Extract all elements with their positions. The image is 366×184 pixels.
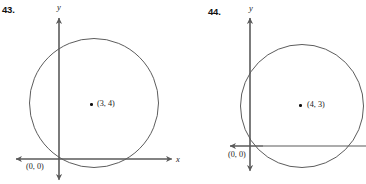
- problem-43-panel: 43. y x (0, 0) (3, 4): [0, 0, 183, 184]
- problem-44-panel: 44. y (0, 0) (4, 3): [183, 0, 366, 184]
- circle-graph-43: [30, 39, 159, 168]
- origin-label-44: (0, 0): [228, 151, 246, 159]
- y-axis-label-43: y: [57, 3, 61, 12]
- center-point-label-44: (4, 3): [307, 101, 325, 109]
- problem-44-plot: [183, 0, 366, 184]
- center-point-marker-43: [90, 103, 93, 106]
- center-point-label-43: (3, 4): [97, 100, 115, 108]
- y-axis-label-44: y: [249, 4, 253, 13]
- figure-pair-container: 43. y x (0, 0) (3, 4) 44.: [0, 0, 366, 184]
- problem-43-plot: [0, 0, 183, 184]
- circle-graph-44: [241, 45, 364, 168]
- origin-label-43: (0, 0): [26, 163, 44, 171]
- center-point-marker-44: [299, 104, 302, 107]
- x-axis-label-43: x: [176, 155, 180, 164]
